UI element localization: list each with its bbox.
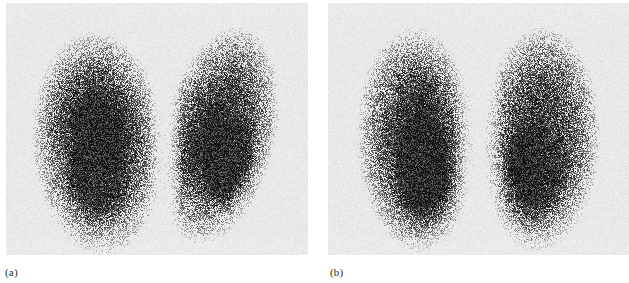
panel-label-a: (a) — [5, 267, 18, 278]
panel-label-b: (b) — [330, 267, 343, 278]
scintigram-image-b — [328, 3, 629, 255]
scan-panel-b — [328, 3, 629, 255]
figure-container: (a) (b) — [0, 0, 629, 283]
scintigram-image-a — [6, 3, 308, 255]
scan-panel-a — [6, 3, 308, 255]
